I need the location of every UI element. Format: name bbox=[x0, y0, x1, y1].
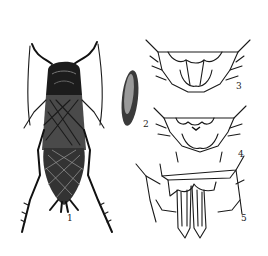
abdomen-detail-4 bbox=[154, 106, 246, 162]
figure-label-4: 4 bbox=[238, 150, 244, 159]
figure-label-1: 1 bbox=[67, 214, 73, 223]
cricket-dorsal-figure bbox=[21, 42, 112, 232]
figure-label-5: 5 bbox=[241, 214, 247, 223]
abdomen-detail-5-ovipositor bbox=[136, 156, 244, 238]
abdomen-detail-3 bbox=[146, 40, 250, 92]
egg-figure bbox=[119, 69, 141, 126]
figure-label-3: 3 bbox=[236, 82, 242, 91]
figure-label-2: 2 bbox=[143, 120, 149, 129]
illustration-plate bbox=[0, 0, 268, 256]
